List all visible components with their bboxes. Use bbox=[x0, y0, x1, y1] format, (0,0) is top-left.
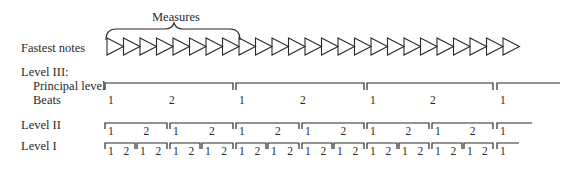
level1-number: 1 bbox=[402, 145, 408, 157]
level1-number: 2 bbox=[321, 145, 327, 157]
level1-number: 2 bbox=[451, 145, 457, 157]
level1-number: 2 bbox=[287, 145, 293, 157]
level1-number: 2 bbox=[482, 145, 488, 157]
level1-number: 2 bbox=[386, 145, 392, 157]
level1-number: 2 bbox=[124, 145, 130, 157]
level1-number: 1 bbox=[435, 145, 441, 157]
level1-number: 1 bbox=[370, 145, 376, 157]
level1-number: 1 bbox=[140, 145, 146, 157]
level1-number: 1 bbox=[205, 145, 211, 157]
level1-number: 1 bbox=[500, 145, 506, 157]
level1-number: 1 bbox=[337, 145, 343, 157]
level1-number: 1 bbox=[271, 145, 277, 157]
level1-number: 2 bbox=[221, 145, 227, 157]
level1-number: 2 bbox=[418, 145, 424, 157]
level1-number: 2 bbox=[189, 145, 195, 157]
level1-number: 1 bbox=[467, 145, 473, 157]
level1-number: 1 bbox=[239, 145, 245, 157]
level1-number: 1 bbox=[305, 145, 311, 157]
level1-number: 2 bbox=[255, 145, 261, 157]
level1-number: 2 bbox=[353, 145, 359, 157]
level1-number: 1 bbox=[173, 145, 179, 157]
level1-brackets bbox=[0, 0, 568, 169]
level1-number: 2 bbox=[156, 145, 162, 157]
level1-number: 1 bbox=[108, 145, 114, 157]
